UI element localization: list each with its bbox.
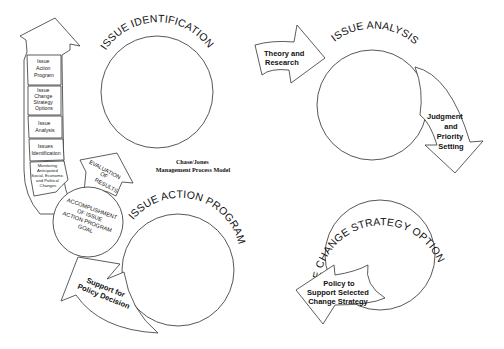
stage-issue-identification: ISSUE IDENTIFICATION xyxy=(98,12,217,148)
left-box-identification: Issues Identification xyxy=(29,139,64,161)
judgment-priority-arrow: Judgment and Priority Setting xyxy=(415,67,483,173)
theory-research-arrow: Theory and Research xyxy=(255,25,325,83)
left-box-analysis: Issue Analysis xyxy=(28,116,62,138)
left-process-arrow: Issue Action Program Issue Change Strate… xyxy=(20,18,80,214)
stage-issue-analysis: ISSUE ANALYSIS xyxy=(317,18,427,160)
diagram-caption: Chase/Jones Management Process Model xyxy=(156,158,231,173)
stage-title-analysis: ISSUE ANALYSIS xyxy=(328,18,421,46)
svg-text:Chase/Jones Management P: Chase/Jones Management Process Model xyxy=(156,158,231,173)
process-model-diagram: Issue Action Program Issue Change Strate… xyxy=(0,0,504,349)
accomplishment-circle: ACCOMPLISHMENT OF ISSUE ACTION PROGRAM G… xyxy=(53,187,123,257)
left-box-action-program: Issue Action Program xyxy=(27,55,61,85)
stage-issue-action-program: ISSUE ACTION PROGRAM xyxy=(122,188,248,326)
left-box-change-strategy: Issue Change Strategy Options xyxy=(28,86,61,115)
